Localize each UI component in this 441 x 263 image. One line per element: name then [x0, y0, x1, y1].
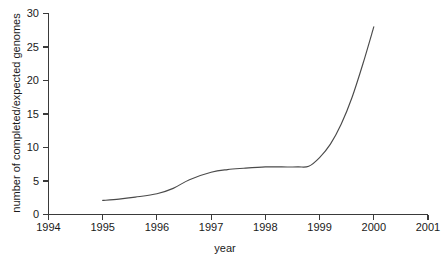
y-tick-label: 30 — [27, 7, 39, 19]
y-tick-label: 25 — [27, 41, 39, 53]
y-axis-title: number of completed/expected genomes — [10, 13, 22, 213]
x-tick-label: 2001 — [416, 221, 440, 233]
x-axis-title: year — [214, 242, 236, 254]
chart-page: 0 5 10 15 20 25 30 1994 1995 1996 1997 1… — [0, 0, 441, 263]
x-tick-label: 1994 — [36, 221, 60, 233]
y-tick-label: 10 — [27, 141, 39, 153]
x-tick-label: 1996 — [145, 221, 169, 233]
line-chart: 0 5 10 15 20 25 30 1994 1995 1996 1997 1… — [0, 0, 441, 263]
x-tick-label: 1998 — [253, 221, 277, 233]
y-tick-label: 0 — [33, 208, 39, 220]
x-tick-label: 2000 — [362, 221, 386, 233]
x-tick-label: 1997 — [199, 221, 223, 233]
y-tick-label: 5 — [33, 175, 39, 187]
x-tick-label: 1995 — [90, 221, 114, 233]
y-tick-label: 15 — [27, 108, 39, 120]
x-tick-label: 1999 — [307, 221, 331, 233]
y-tick-label: 20 — [27, 74, 39, 86]
